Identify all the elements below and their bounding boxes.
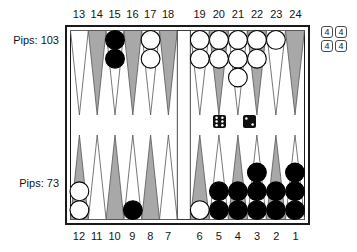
checker-light-point-12[interactable] — [70, 201, 89, 220]
checker-light-point-21[interactable] — [229, 49, 248, 68]
point-number-4: 4 — [228, 229, 247, 243]
die-2-icon[interactable] — [243, 115, 256, 128]
top-point-numbers-right: 19 20 21 22 23 24 — [190, 7, 305, 21]
checker-light-point-20[interactable] — [210, 31, 229, 50]
checker-light-point-19[interactable] — [190, 31, 209, 50]
point-number-12: 12 — [70, 229, 88, 243]
point-number-21: 21 — [228, 7, 247, 21]
point-number-13: 13 — [70, 7, 88, 21]
checker-light-point-17[interactable] — [141, 49, 160, 68]
point-number-17: 17 — [141, 7, 159, 21]
checker-light-point-22[interactable] — [248, 49, 267, 68]
checker-light-point-21[interactable] — [229, 31, 248, 50]
point-number-6: 6 — [190, 229, 209, 243]
point-number-23: 23 — [267, 7, 286, 21]
checker-dark-point-4[interactable] — [229, 201, 248, 220]
checker-light-point-21[interactable] — [229, 68, 248, 87]
point-number-24: 24 — [286, 7, 305, 21]
checker-dark-point-15[interactable] — [106, 49, 125, 68]
checker-light-point-19[interactable] — [190, 49, 209, 68]
checker-dark-point-5[interactable] — [210, 182, 229, 201]
bottom-point-numbers-left: 12 11 10 9 8 7 — [70, 229, 177, 243]
bar — [177, 31, 190, 220]
dice-tray: 4 4 4 4 — [321, 26, 347, 52]
point-number-3: 3 — [248, 229, 267, 243]
point-number-14: 14 — [88, 7, 106, 21]
point-number-22: 22 — [248, 7, 267, 21]
tray-die-3: 4 — [321, 40, 333, 52]
bottom-point-numbers-right: 6 5 4 3 2 1 — [190, 229, 305, 243]
checker-dark-point-4[interactable] — [229, 182, 248, 201]
point-number-20: 20 — [209, 7, 228, 21]
checker-light-point-17[interactable] — [141, 31, 160, 50]
point-number-16: 16 — [123, 7, 141, 21]
tray-die-2: 4 — [335, 26, 347, 38]
tray-die-4: 4 — [335, 40, 347, 52]
checker-light-point-6[interactable] — [190, 201, 209, 220]
checker-dark-point-1[interactable] — [286, 163, 305, 182]
pips-count-bottom: Pips: 73 — [4, 177, 59, 189]
die-6-icon[interactable] — [213, 115, 226, 128]
point-number-15: 15 — [106, 7, 124, 21]
checker-light-point-20[interactable] — [210, 49, 229, 68]
checker-light-point-12[interactable] — [70, 182, 89, 201]
point-number-2: 2 — [267, 229, 286, 243]
backgammon-diagram: Pips: 103 Pips: 73 13 14 15 16 17 18 19 … — [0, 0, 357, 252]
point-number-18: 18 — [159, 7, 177, 21]
checker-dark-point-15[interactable] — [106, 31, 125, 50]
pips-count-top: Pips: 103 — [4, 34, 59, 46]
point-number-19: 19 — [190, 7, 209, 21]
checker-dark-point-9[interactable] — [123, 201, 142, 220]
checker-dark-point-3[interactable] — [248, 182, 267, 201]
top-point-numbers-left: 13 14 15 16 17 18 — [70, 7, 177, 21]
point-number-10: 10 — [106, 229, 124, 243]
checker-dark-point-3[interactable] — [248, 201, 267, 220]
checker-dark-point-2[interactable] — [267, 182, 286, 201]
checker-dark-point-2[interactable] — [267, 201, 286, 220]
point-number-9: 9 — [123, 229, 141, 243]
tray-die-1: 4 — [321, 26, 333, 38]
checker-light-point-22[interactable] — [248, 31, 267, 50]
checker-light-point-23[interactable] — [267, 31, 286, 50]
point-number-7: 7 — [159, 229, 177, 243]
point-number-5: 5 — [209, 229, 228, 243]
checker-dark-point-1[interactable] — [286, 201, 305, 220]
checker-dark-point-5[interactable] — [210, 201, 229, 220]
point-number-11: 11 — [88, 229, 106, 243]
point-number-8: 8 — [141, 229, 159, 243]
checker-dark-point-1[interactable] — [286, 182, 305, 201]
checker-dark-point-3[interactable] — [248, 163, 267, 182]
point-number-1: 1 — [286, 229, 305, 243]
